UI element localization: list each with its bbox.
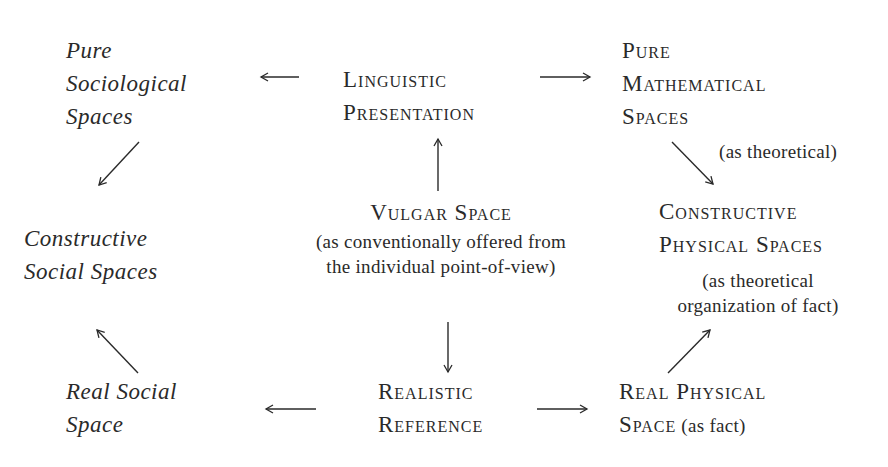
arrow-up-left-icon xyxy=(97,330,138,373)
arrow-down-right-icon xyxy=(672,142,713,184)
diagram-arrows xyxy=(0,0,888,467)
arrow-down-left-icon xyxy=(99,142,139,185)
arrow-up-right-icon xyxy=(668,330,710,373)
